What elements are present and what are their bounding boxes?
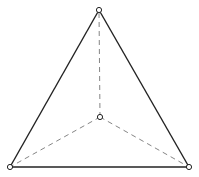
solid-edge-top-bottom-left — [10, 10, 99, 167]
dashed-edge-center-bottom-right — [100, 117, 189, 167]
solid-edge-top-bottom-right — [99, 10, 189, 167]
vertex-top-icon — [96, 7, 101, 12]
vertex-bottom-right-icon — [186, 164, 191, 169]
vertex-center-icon — [97, 114, 102, 119]
tetrahedron-diagram — [0, 0, 199, 177]
vertex-bottom-left-icon — [7, 164, 12, 169]
dashed-edge-center-top — [99, 10, 100, 117]
dashed-edges — [10, 10, 189, 167]
